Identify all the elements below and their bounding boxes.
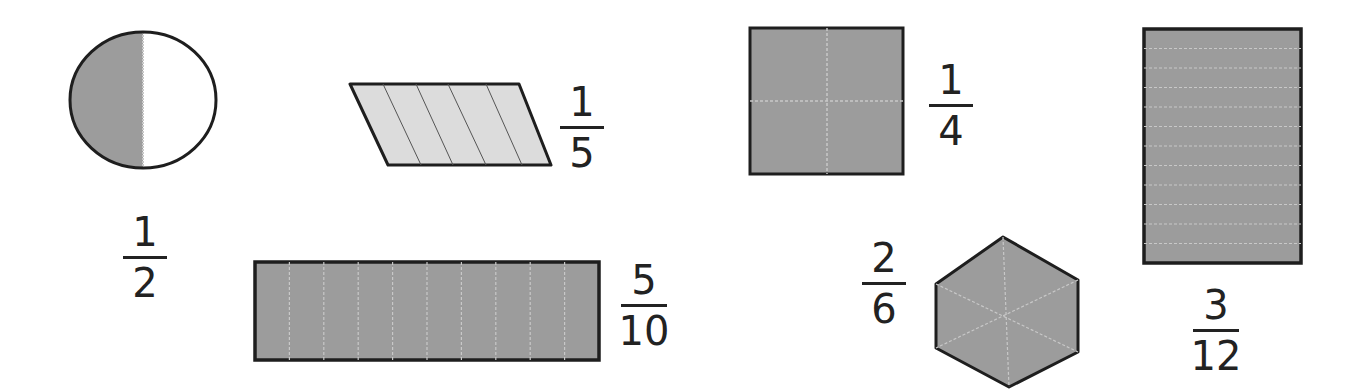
fraction-bar — [123, 256, 167, 259]
fraction-denominator: 5 — [552, 131, 612, 175]
fraction-denominator: 12 — [1186, 334, 1246, 378]
fraction-label-hexagon: 2 6 — [854, 236, 914, 331]
fraction-denominator: 10 — [614, 309, 674, 353]
fraction-numerator: 5 — [614, 258, 674, 302]
fraction-denominator: 4 — [921, 109, 981, 153]
tall-rectangle-twelfths-shape — [1141, 26, 1305, 266]
fraction-label-parallelogram: 1 5 — [552, 80, 612, 175]
wide-rectangle-tenths-shape — [252, 259, 602, 363]
fraction-numerator: 1 — [115, 210, 175, 254]
fraction-bar — [621, 304, 667, 307]
circle-halves-shape — [66, 28, 222, 172]
hexagon-sixths-shape — [932, 234, 1082, 390]
fraction-denominator: 6 — [854, 287, 914, 331]
fraction-denominator: 2 — [115, 261, 175, 305]
fraction-label-wide-rectangle: 5 10 — [614, 258, 674, 353]
fraction-label-tall-rectangle: 3 12 — [1186, 283, 1246, 378]
fraction-numerator: 1 — [921, 58, 981, 102]
fraction-numerator: 3 — [1186, 283, 1246, 327]
fraction-bar — [560, 126, 604, 129]
fraction-bar — [862, 282, 906, 285]
fraction-bar — [1193, 329, 1239, 332]
parallelogram-fifths-shape — [346, 80, 556, 170]
fraction-numerator: 2 — [854, 236, 914, 280]
fraction-numerator: 1 — [552, 80, 612, 124]
fraction-label-circle: 1 2 — [115, 210, 175, 305]
square-quarters-shape — [747, 25, 907, 177]
fraction-bar — [929, 104, 973, 107]
fraction-label-square: 1 4 — [921, 58, 981, 153]
